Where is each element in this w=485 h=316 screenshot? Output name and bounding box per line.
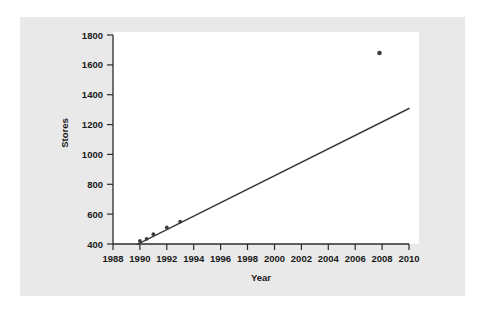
x-tick-label: 2000: [264, 253, 285, 264]
y-axis-title: Stores: [59, 118, 70, 148]
y-tick-label: 400: [87, 239, 103, 250]
figure-root: 1800 1600 1400 1200 1000 800 600 400: [0, 0, 485, 316]
plot-area-background: [113, 32, 419, 244]
y-axis-ticks: [107, 35, 113, 244]
outlier-data-point: [377, 51, 382, 56]
y-tick-label: 600: [87, 209, 103, 220]
x-tick-label: 2002: [291, 253, 312, 264]
data-point: [152, 232, 156, 236]
x-tick-label: 1994: [183, 253, 205, 264]
x-tick-label: 2008: [372, 253, 393, 264]
y-tick-label: 1800: [82, 30, 103, 41]
x-tick-label: 1990: [129, 253, 150, 264]
data-point: [165, 226, 169, 230]
y-tick-label: 1400: [82, 89, 103, 100]
data-point: [138, 239, 142, 243]
y-tick-label: 1600: [82, 59, 103, 70]
x-tick-label: 1992: [156, 253, 177, 264]
y-tick-label: 1000: [82, 149, 103, 160]
y-tick-label: 800: [87, 179, 103, 190]
x-axis-tick-labels: 1988 1990 1992 1994 1996 1998 2000 2002 …: [102, 253, 419, 264]
x-axis-ticks: [113, 244, 409, 250]
data-point: [178, 220, 182, 224]
x-tick-label: 2004: [318, 253, 340, 264]
x-tick-label: 1996: [210, 253, 231, 264]
x-tick-label: 1998: [237, 253, 258, 264]
x-tick-label: 1988: [102, 253, 123, 264]
x-tick-label: 2010: [398, 253, 419, 264]
x-tick-label: 2006: [345, 253, 366, 264]
x-axis-title: Year: [251, 272, 271, 283]
y-tick-label: 1200: [82, 119, 103, 130]
scatter-plot: 1800 1600 1400 1200 1000 800 600 400: [0, 0, 485, 316]
y-axis-tick-labels: 1800 1600 1400 1200 1000 800 600 400: [82, 30, 103, 250]
data-point: [145, 237, 149, 241]
